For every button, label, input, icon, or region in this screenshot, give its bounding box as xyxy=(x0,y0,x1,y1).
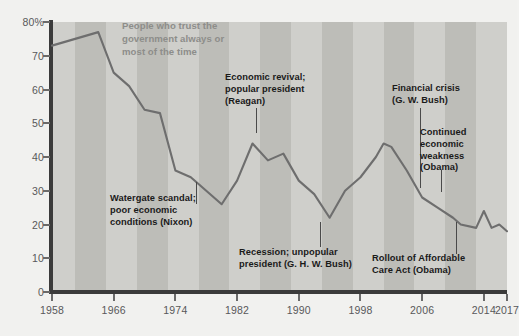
annotation-financial-crisis: Financial crisis (G. W. Bush) xyxy=(392,83,460,107)
y-tick-label: 50 xyxy=(8,117,44,129)
annotation-reagan: Economic revival; popular president (Rea… xyxy=(225,72,305,107)
x-tick-mark xyxy=(421,294,423,301)
term-band xyxy=(137,22,168,292)
x-tick-mark xyxy=(51,294,53,301)
x-tick-mark xyxy=(298,294,300,301)
y-tick-mark xyxy=(43,89,50,91)
y-tick-label: 0 xyxy=(8,286,44,298)
x-tick-mark xyxy=(113,294,115,301)
y-tick-label: 20 xyxy=(8,219,44,231)
y-tick-mark xyxy=(43,190,50,192)
y-tick-label: 10 xyxy=(8,252,44,264)
y-tick-label: 80% xyxy=(8,16,44,28)
annotation-watergate: Watergate scandal; poor economic conditi… xyxy=(110,193,196,228)
x-tick-mark xyxy=(236,294,238,301)
x-tick-mark xyxy=(174,294,176,301)
x-tick-label: 2006 xyxy=(410,304,434,316)
x-tick-label: 1982 xyxy=(225,304,249,316)
y-tick-label: 70 xyxy=(8,50,44,62)
y-tick-mark xyxy=(43,55,50,57)
x-tick-label: 2017 xyxy=(495,304,519,316)
x-tick-label: 1990 xyxy=(287,304,311,316)
y-tick-mark xyxy=(43,291,50,293)
annotation-aca-rollout: Rollout of Affordable Care Act (Obama) xyxy=(372,253,465,277)
term-band xyxy=(75,22,106,292)
y-tick-label: 60 xyxy=(8,84,44,96)
x-tick-label: 2014 xyxy=(472,304,496,316)
annotation-bush-recession: Recession; unpopular president (G. H. W.… xyxy=(239,247,352,271)
annotation-leader-reagan xyxy=(256,108,257,133)
y-tick-label: 30 xyxy=(8,185,44,197)
annotation-leader-watergate xyxy=(196,182,197,204)
y-axis-labels: 80%706050403020100 xyxy=(0,0,44,336)
y-tick-mark xyxy=(43,122,50,124)
x-axis-spine xyxy=(49,290,507,294)
annotation-continued-weakness: Continued economic weakness (Obama) xyxy=(420,127,466,174)
y-tick-mark xyxy=(43,156,50,158)
x-tick-label: 1958 xyxy=(40,304,64,316)
y-tick-label: 40 xyxy=(8,151,44,163)
y-tick-mark xyxy=(43,21,50,23)
annotation-leader-aca-rollout xyxy=(456,222,457,254)
y-tick-mark xyxy=(43,224,50,226)
x-tick-mark xyxy=(483,294,485,301)
term-band xyxy=(199,22,230,292)
x-tick-mark xyxy=(359,294,361,301)
term-band xyxy=(384,22,415,292)
series-title-label: People who trust the government always o… xyxy=(122,20,224,58)
x-tick-label: 1966 xyxy=(102,304,126,316)
annotation-leader-bush-recession xyxy=(320,222,321,247)
annotation-leader-continued-weakness xyxy=(441,170,442,192)
y-tick-mark xyxy=(43,257,50,259)
x-tick-label: 1974 xyxy=(163,304,187,316)
x-tick-label: 1998 xyxy=(348,304,372,316)
x-tick-mark xyxy=(506,294,508,301)
